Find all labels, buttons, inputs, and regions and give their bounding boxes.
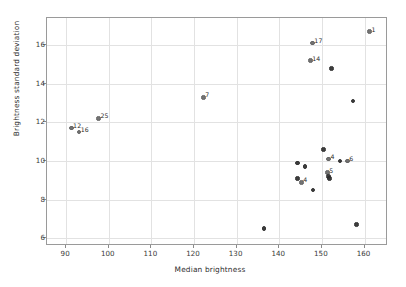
data-point-label: 4 (331, 153, 335, 160)
x-tick-label: 110 (144, 249, 158, 258)
x-tick-mark (65, 245, 66, 248)
x-axis-title-text: Median brightness (175, 265, 246, 274)
gridline-vertical (237, 18, 238, 244)
x-tick-mark (278, 245, 279, 248)
data-point-label: 5 (329, 166, 333, 173)
gridline-vertical (322, 18, 323, 244)
x-tick-label: 150 (314, 249, 328, 258)
data-point-label: 4 (303, 176, 307, 183)
data-point (351, 99, 356, 104)
y-tick-label: 12 (36, 117, 45, 126)
data-point (354, 222, 359, 227)
data-point (295, 161, 300, 166)
gridline-vertical (151, 18, 152, 244)
data-point (338, 159, 343, 164)
y-tick-label: 10 (36, 155, 45, 164)
x-tick-label: 100 (101, 249, 115, 258)
data-point (327, 176, 332, 181)
data-point-label: 6 (349, 155, 353, 162)
gridline-horizontal (47, 45, 386, 46)
x-tick-mark (364, 245, 365, 248)
x-tick-label: 90 (61, 249, 70, 258)
y-tick-label: 16 (36, 40, 45, 49)
x-tick-label: 120 (186, 249, 200, 258)
data-point (321, 147, 326, 152)
data-point-label: 14 (312, 54, 320, 61)
gridline-vertical (66, 18, 67, 244)
y-axis-title: Brightness standard deviation (12, 0, 21, 189)
x-tick-mark (321, 245, 322, 248)
data-point-label: 17 (314, 37, 322, 44)
x-tick-mark (193, 245, 194, 248)
x-tick-mark (236, 245, 237, 248)
x-tick-label: 130 (229, 249, 243, 258)
gridline-vertical (109, 18, 110, 244)
gridline-vertical (279, 18, 280, 244)
x-tick-label: 140 (271, 249, 285, 258)
data-point-label: 1 (371, 25, 375, 32)
x-tick-mark (108, 245, 109, 248)
x-tick-label: 160 (357, 249, 371, 258)
scatter-chart-figure: 1171472512164654 Median brightness Brigh… (0, 0, 406, 287)
data-point-label: 16 (81, 126, 89, 133)
gridline-vertical (194, 18, 195, 244)
gridline-vertical (365, 18, 366, 244)
y-tick-label: 8 (40, 194, 45, 203)
x-axis-title: Median brightness (0, 265, 406, 274)
gridline-horizontal (47, 161, 386, 162)
gridline-horizontal (47, 200, 386, 201)
gridline-horizontal (47, 84, 386, 85)
data-point (329, 66, 334, 71)
y-tick-label: 6 (40, 233, 45, 242)
data-point-label: 25 (100, 112, 108, 119)
data-point (303, 164, 308, 169)
x-tick-mark (150, 245, 151, 248)
data-point-label: 7 (205, 91, 209, 98)
data-point (262, 226, 267, 231)
gridline-horizontal (47, 238, 386, 239)
y-tick-label: 14 (36, 78, 45, 87)
plot-area: 1171472512164654 (46, 17, 387, 245)
gridline-horizontal (47, 122, 386, 123)
data-point (311, 188, 316, 193)
